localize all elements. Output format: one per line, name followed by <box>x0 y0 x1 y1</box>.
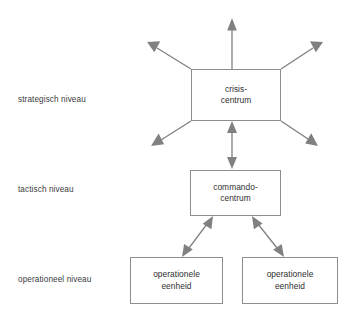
diagram-canvas: strategisch niveau tactisch niveau opera… <box>0 0 350 323</box>
connector-commando-op-left <box>182 216 213 257</box>
node-commando-centrum[interactable]: commando- centrum <box>190 170 281 216</box>
connector-crisis-out-upper-right <box>281 41 323 69</box>
node-commando-centrum-line2: centrum <box>220 193 251 205</box>
connector-crisis-out-lower-left <box>151 121 191 146</box>
level-label-strategisch: strategisch niveau <box>18 96 86 104</box>
node-crisis-centrum[interactable]: crisis- centrum <box>191 69 281 121</box>
node-commando-centrum-line1: commando- <box>213 182 258 194</box>
node-operationele-eenheid-left-line2: eenheid <box>161 281 191 293</box>
node-operationele-eenheid-left[interactable]: operationele eenheid <box>130 257 223 304</box>
connector-commando-op-right <box>252 216 284 257</box>
connector-crisis-out-upper-left <box>147 41 191 69</box>
node-operationele-eenheid-right-line2: eenheid <box>275 281 305 293</box>
node-operationele-eenheid-left-line1: operationele <box>153 269 200 281</box>
node-crisis-centrum-line1: crisis- <box>225 84 247 96</box>
connector-crisis-out-lower-right <box>281 121 318 146</box>
level-label-operationeel: operationeel niveau <box>18 276 91 284</box>
node-operationele-eenheid-right-line1: operationele <box>267 269 314 281</box>
node-crisis-centrum-line2: centrum <box>221 95 252 107</box>
connector-crisis-commando <box>227 121 237 169</box>
node-operationele-eenheid-right[interactable]: operationele eenheid <box>242 257 338 304</box>
connector-crisis-out-up <box>227 18 237 69</box>
level-label-tactisch: tactisch niveau <box>18 186 74 194</box>
